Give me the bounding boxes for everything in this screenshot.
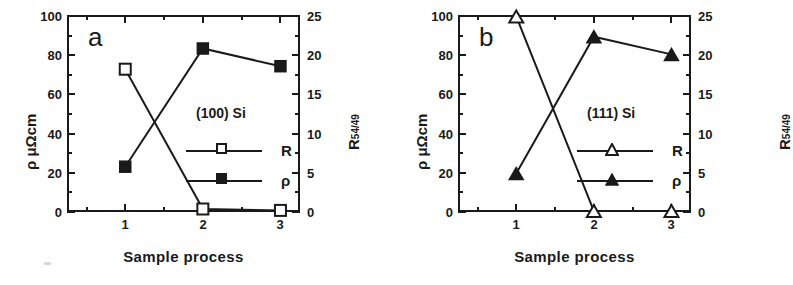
series-line-R-a (125, 69, 280, 210)
right-tick-label-25-b: 25 (698, 10, 712, 23)
data-point-rho-3-b (664, 48, 678, 60)
left-tick-label-80-b: 80 (411, 49, 453, 62)
left-tick-label-60-b: 60 (411, 88, 453, 101)
data-point-rho-3-a (275, 61, 286, 72)
left-tick-label-80-a: 80 (20, 49, 62, 62)
left-tick-label-0-b: 0 (411, 206, 453, 219)
right-tick-label-0-a: 0 (307, 206, 314, 219)
left-tick-label-100-b: 100 (411, 10, 453, 23)
y-axis-title-left-b: ρ μΩcm (413, 114, 430, 170)
data-point-rho-1-a (120, 161, 131, 172)
y-axis-title-right-sub-b: 54/49 (781, 114, 792, 139)
x-axis-title-a: Sample process (0, 248, 367, 265)
bottom-tick-label-1-b: 1 (496, 218, 536, 231)
data-point-rho-2-a (197, 43, 208, 54)
data-point-R-1-a (120, 64, 131, 75)
right-tick-label-0-b: 0 (698, 206, 705, 219)
data-point-rho-1-b (509, 168, 523, 180)
right-tick-label-15-a: 15 (307, 88, 321, 101)
right-tick-label-25-a: 25 (307, 10, 321, 23)
left-tick-label-60-a: 60 (20, 88, 62, 101)
left-tick-label-0-a: 0 (20, 206, 62, 219)
right-tick-label-20-a: 20 (307, 49, 321, 62)
left-tick-label-100-a: 100 (20, 10, 62, 23)
bottom-tick-label-3-b: 3 (651, 218, 691, 231)
right-tick-label-10-a: 10 (307, 128, 321, 141)
y-axis-title-right-base-a: R (345, 139, 362, 150)
right-tick-label-5-b: 5 (698, 167, 705, 180)
bottom-tick-label-3-a: 3 (260, 218, 300, 231)
data-point-rho-2-b (587, 31, 601, 43)
data-point-R-2-a (197, 204, 208, 215)
data-layer-b (458, 15, 691, 212)
bottom-tick-label-2-a: 2 (183, 218, 223, 231)
bottom-tick-label-2-b: 2 (574, 218, 614, 231)
scan-artifact-speck (44, 262, 51, 265)
chart-panel-a: 0 20 40 60 80 100 0 5 10 15 20 25 (0, 0, 391, 285)
y-axis-title-right-sub-a: 54/49 (350, 114, 361, 139)
y-axis-title-right-a: R54/49 (345, 114, 362, 150)
bottom-tick-label-1-a: 1 (105, 218, 145, 231)
right-tick-label-10-b: 10 (698, 128, 712, 141)
right-tick-label-15-b: 15 (698, 88, 712, 101)
x-axis-title-b: Sample process (391, 248, 758, 265)
y-axis-title-right-b: R54/49 (776, 114, 793, 150)
right-tick-label-5-a: 5 (307, 167, 314, 180)
series-line-rho-b (516, 37, 671, 174)
series-line-R-b (516, 16, 671, 211)
y-axis-title-right-base-b: R (776, 139, 793, 150)
right-tick-label-20-b: 20 (698, 49, 712, 62)
data-point-R-1-b (509, 10, 523, 22)
data-layer-a (67, 15, 300, 212)
y-axis-title-left-a: ρ μΩcm (22, 114, 39, 170)
series-line-rho-a (125, 49, 280, 167)
chart-panel-b: 0 20 40 60 80 100 0 5 10 15 20 25 (391, 0, 782, 285)
data-point-R-3-a (275, 205, 286, 216)
